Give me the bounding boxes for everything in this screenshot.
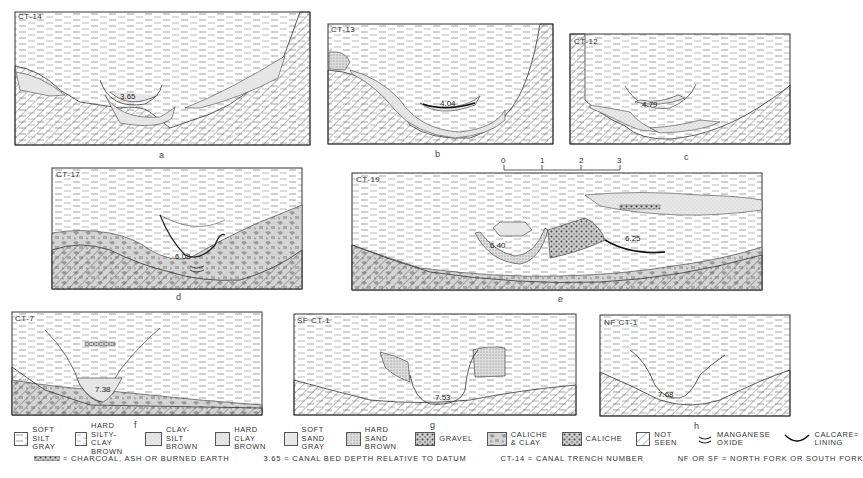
trench-label-b: CT-13 xyxy=(331,25,355,34)
panel-caption-c: c xyxy=(684,152,689,162)
hard-sand-swatch-icon xyxy=(346,432,361,446)
scale-tick-2: 2 xyxy=(579,156,584,165)
legend-item-caliche-clay: CALICHE & CLAY xyxy=(487,431,548,448)
panel-g: 7.53 SF CT-1 g xyxy=(294,314,576,430)
legend-item-hard-silty-clay: HARD SILTY-CLAY BROWN xyxy=(75,422,131,456)
trench-label-a: CT-14 xyxy=(18,12,42,21)
not-seen-swatch-icon xyxy=(636,432,650,446)
panel-caption-a: a xyxy=(159,150,164,160)
note-fork: NF OR SF = NORTH FORK OR SOUTH FORK xyxy=(678,454,863,463)
panel-d: 6.08 CT-17 d xyxy=(52,168,302,302)
panel-b: 4.04 CT-13 b xyxy=(328,24,553,159)
scale-tick-1: 1 xyxy=(540,156,545,165)
note-charcoal: = CHARCOAL, ASH OR BURNED EARTH xyxy=(34,454,229,463)
hard-clay-swatch-icon xyxy=(215,432,231,446)
depth-label-g: 7.53 xyxy=(435,393,451,402)
depth-label-d: 6.08 xyxy=(175,252,191,261)
panel-e: 6.40 6.25 CT-19 e xyxy=(352,173,762,304)
charcoal-icon xyxy=(34,456,60,461)
depth-label-h: 7.68 xyxy=(658,390,674,399)
panel-h: 7.68 NF CT-1 h xyxy=(600,315,790,431)
depth-label-e2: 6.25 xyxy=(625,234,641,243)
legend-swatch-row: SOFT SILT GRAY HARD SILTY-CLAY BROWN CLA… xyxy=(14,428,793,450)
legend-item-clay-silt: CLAY-SILT BROWN xyxy=(145,426,201,452)
depth-label-e1: 6.40 xyxy=(490,241,506,250)
legend-item-calcareous-lining: CALCARE= LINING xyxy=(784,431,859,448)
trench-label-d: CT-17 xyxy=(56,170,80,179)
depth-label-a: 3.65 xyxy=(120,92,136,101)
scale-tick-0: 0 xyxy=(501,156,506,165)
caliche-clay-swatch-icon xyxy=(487,432,507,446)
scale-tick-3: 3 xyxy=(617,156,622,165)
panel-a: 3.65 CT-14 a xyxy=(15,12,310,160)
note-trench-number: CT-14 = CANAL TRENCH NUMBER xyxy=(501,454,644,463)
legend-item-hard-clay: HARD CLAY BROWN xyxy=(215,426,271,452)
panel-f: 7.38 CT-7 f xyxy=(12,312,262,430)
trench-label-c: CT-12 xyxy=(574,37,598,46)
soft-silt-swatch-icon xyxy=(14,432,28,446)
legend-item-gravel: GRAVEL xyxy=(415,432,472,446)
panel-c: 4.79 CT-12 c xyxy=(570,34,790,162)
calcareous-lining-icon xyxy=(784,433,810,445)
panel-caption-e: e xyxy=(558,294,563,304)
note-depth: 3.65 = CANAL BED DEPTH RELATIVE TO DATUM xyxy=(263,454,466,463)
legend-item-soft-sand: SOFT SAND GRAY xyxy=(284,426,331,452)
charcoal-layer-icon xyxy=(620,205,660,209)
depth-label-f: 7.38 xyxy=(95,385,111,394)
clay-silt-swatch-icon xyxy=(145,432,162,446)
legend-item-caliche: CALICHE xyxy=(562,432,623,446)
caliche-swatch-icon xyxy=(562,432,582,446)
manganese-oxide-icon xyxy=(697,433,713,445)
trench-label-f: CT-7 xyxy=(15,314,34,323)
trench-label-g: SF CT-1 xyxy=(297,316,330,325)
legend-item-hard-sand: HARD SAND BROWN xyxy=(346,426,402,452)
legend: SOFT SILT GRAY HARD SILTY-CLAY BROWN CLA… xyxy=(14,428,793,466)
trench-label-e: CT-19 xyxy=(356,175,380,184)
soft-sand-swatch-icon xyxy=(284,432,297,446)
depth-label-b: 4.04 xyxy=(440,99,456,108)
panel-caption-b: b xyxy=(435,149,440,159)
legend-item-not-seen: NOT SEEN xyxy=(636,431,683,448)
legend-item-soft-silt: SOFT SILT GRAY xyxy=(14,426,61,452)
gravel-swatch-icon xyxy=(415,432,435,446)
trench-label-h: NF CT-1 xyxy=(604,318,638,327)
hard-silty-clay-swatch-icon xyxy=(75,432,87,446)
legend-item-manganese-oxide: MANGANESE OXIDE xyxy=(697,431,770,448)
depth-label-c: 4.79 xyxy=(642,100,658,109)
panel-caption-d: d xyxy=(176,292,181,302)
